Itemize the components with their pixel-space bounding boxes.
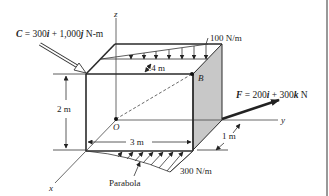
top-load-label: 100 N/m — [210, 33, 242, 43]
x-axis-label: x — [48, 183, 53, 193]
shaded-face — [193, 44, 222, 150]
parabola-label: Parabola — [109, 178, 141, 188]
bottom-load-arrow — [151, 152, 163, 165]
point-B-label: B — [198, 73, 204, 83]
bottom-load-curve — [86, 151, 193, 172]
dim-1m-label: 1 m — [222, 131, 236, 141]
parabola-leader — [134, 162, 140, 176]
y-axis-label: y — [280, 115, 285, 125]
line-OB — [116, 74, 192, 119]
force-label: F = 200i + 300k N — [235, 90, 308, 100]
dim-3m-label: 3 m — [130, 137, 144, 147]
point-B — [190, 72, 194, 76]
bottom-load-label: 300 N/m — [180, 166, 212, 176]
statics-diagram: z y x 100 N/m .4 m B O C = 300i + 1,000j… — [0, 0, 329, 196]
couple-arrow — [40, 44, 86, 73]
top-load-slope — [101, 44, 208, 59]
bottom-load-arrow — [127, 152, 133, 159]
point-O — [114, 117, 118, 121]
top-load-leader — [206, 38, 208, 44]
point-O-label: O — [113, 122, 120, 132]
bottom-load-arrow — [143, 152, 153, 163]
z-axis-label: z — [113, 9, 118, 19]
bottom-load-arrow — [135, 152, 143, 161]
dim-04m-label: .4 m — [149, 63, 165, 73]
dim-2m-label: 2 m — [57, 104, 71, 114]
dim-1m-arrow — [216, 143, 224, 150]
couple-label: C = 300i + 1,000j N-m — [16, 29, 104, 39]
force-arrow — [222, 100, 279, 119]
